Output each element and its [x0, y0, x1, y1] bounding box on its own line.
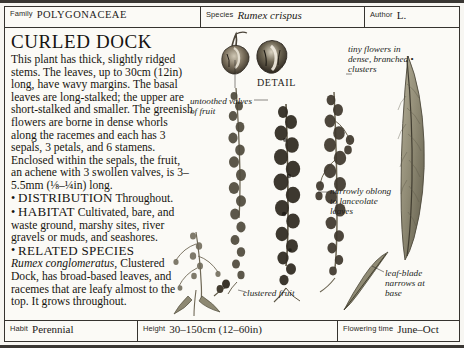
annotation-tiny-flowers: tiny flowers in dense, branched • cluste…	[348, 44, 414, 74]
author-value: L.	[397, 9, 406, 21]
annotation-narrowly-oblong-text: narrowly oblong to lanceolate leaves	[330, 186, 391, 216]
field-guide-page: Family POLYGONACEAE Species Rumex crispu…	[0, 0, 464, 348]
species-value: Rumex crispus	[237, 9, 301, 21]
annotation-tiny-flowers-last: clusters	[348, 64, 377, 74]
author-cell: Author L.	[365, 7, 459, 27]
annotation-leaf-blade: leaf-blade narrows at base	[385, 268, 437, 298]
related-heading: RELATED SPECIES	[18, 243, 134, 258]
author-label: Author	[370, 10, 393, 19]
habit-label: Habit	[10, 324, 28, 333]
page-top-rule	[0, 0, 464, 3]
distribution-text: Throughout.	[115, 192, 173, 205]
related-species-name: Rumex conglomeratus	[11, 257, 114, 270]
annotation-narrowly-oblong: narrowly oblong to lanceolate leaves	[330, 186, 396, 216]
section-related-species: • RELATED SPECIES Rumex conglomeratus, C…	[11, 245, 175, 308]
family-cell: Family POLYGONACEAE	[5, 7, 201, 27]
annotation-untoothed-text: untoothed valves of fruit	[190, 96, 252, 116]
related-bullet: •	[11, 243, 15, 257]
annotation-clustered-fruit: clustered fruit	[243, 288, 303, 298]
habitat-heading: HABITAT	[18, 204, 75, 219]
page-title: CURLED DOCK	[11, 32, 193, 52]
species-label: Species	[206, 10, 233, 19]
annotation-bullet-dot: •	[411, 54, 414, 64]
annotation-tiny-flowers-text: tiny flowers in dense, branched	[348, 44, 408, 64]
annotation-clustered-fruit-text: clustered fruit	[243, 288, 294, 298]
description-paragraph: This plant has thick, slightly ridged st…	[11, 53, 193, 192]
header-row: Family POLYGONACEAE Species Rumex crispu…	[5, 7, 459, 28]
height-cell: Height 30–150cm (12–60in)	[138, 321, 338, 341]
annotation-leaf-blade-text: leaf-blade narrows at base	[385, 268, 425, 298]
flowering-time-value: June–Oct	[397, 323, 439, 335]
habitat-bullet: •	[11, 205, 15, 219]
distribution-bullet: •	[11, 191, 15, 205]
article-body: This plant has thick, slightly ridged st…	[11, 54, 193, 309]
annotation-untoothed-valves: untoothed valves of fruit	[190, 96, 252, 116]
flowering-time-cell: Flowering time June–Oct	[338, 321, 459, 341]
height-label: Height	[143, 324, 165, 333]
height-value: 30–150cm (12–60in)	[169, 323, 262, 335]
section-habitat: • HABITAT Cultivated, bare, and waste gr…	[11, 206, 174, 244]
habit-cell: Habit Perennial	[5, 321, 138, 341]
family-value: POLYGONACEAE	[37, 9, 127, 20]
flowering-time-label: Flowering time	[343, 324, 393, 333]
species-cell: Species Rumex crispus	[201, 7, 365, 27]
footer-row: Habit Perennial Height 30–150cm (12–60in…	[5, 320, 459, 341]
family-label: Family	[10, 9, 33, 18]
article-text-column: CURLED DOCK This plant has thick, slight…	[11, 32, 193, 309]
habit-value: Perennial	[32, 323, 74, 335]
detail-caption: DETAIL	[257, 77, 296, 88]
